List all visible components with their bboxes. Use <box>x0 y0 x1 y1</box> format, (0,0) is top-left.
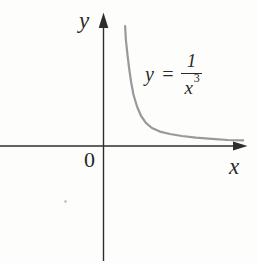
x-axis-label: x <box>229 155 239 178</box>
equation-denominator-base: x <box>184 77 192 98</box>
y-axis-arrowhead-icon <box>99 13 109 29</box>
equation-equals-sign: = <box>161 64 175 84</box>
equation-denominator-exponent: 3 <box>194 71 200 85</box>
origin-label: 0 <box>84 149 95 171</box>
function-plot-figure: y x 0 y = 1 x3 <box>0 0 258 263</box>
axes-and-curve-canvas <box>0 0 258 263</box>
equation-fraction: 1 x3 <box>181 51 201 97</box>
scan-speck <box>64 200 67 203</box>
x-axis-arrowhead-icon <box>233 141 248 150</box>
curve-equation-label: y = 1 x3 <box>145 51 202 97</box>
equation-lhs: y <box>145 64 154 84</box>
y-axis-label: y <box>79 9 89 32</box>
equation-denominator: x3 <box>181 73 201 97</box>
equation-numerator: 1 <box>185 51 199 73</box>
